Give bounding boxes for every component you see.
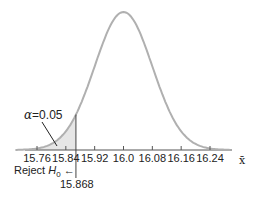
reject-text: Reject [14, 164, 48, 176]
x-tick-label: 16.0 [113, 152, 134, 164]
alpha-value: =0.05 [32, 108, 62, 122]
x-tick-label: 15.84 [52, 152, 80, 164]
x-tick-label: 15.92 [81, 152, 109, 164]
alpha-symbol: α [24, 108, 32, 122]
x-tick-label: 16.16 [167, 152, 195, 164]
normal-curve [15, 12, 230, 150]
left-arrow-icon: ← [64, 164, 75, 176]
alpha-pointer [42, 122, 57, 146]
h-symbol: H [48, 164, 56, 176]
x-tick-label: 15.76 [23, 152, 51, 164]
critical-value-label: 15.868 [60, 178, 94, 190]
reject-h0-label: Reject H0 ← [14, 164, 75, 179]
x-tick-label: 16.08 [139, 152, 167, 164]
x-tick-label: 16.24 [196, 152, 224, 164]
x-axis-label: x̄ [239, 154, 245, 167]
alpha-label: α=0.05 [24, 108, 62, 122]
